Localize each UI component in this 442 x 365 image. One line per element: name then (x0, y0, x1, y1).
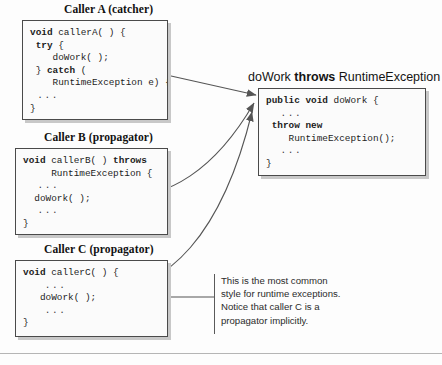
code-line: } (30, 103, 161, 116)
caller-a-code: void callerA( ) { try { doWork( ); } cat… (23, 21, 167, 120)
dowork-title-part1: doWork (248, 70, 294, 84)
code-line: ... (23, 305, 161, 318)
annotation-line: propagator implicitly. (221, 314, 394, 327)
caller-c-code-box: void callerC( ) { ... doWork( ); ...} (15, 260, 168, 337)
annotation-note: This is the most common style for runtim… (214, 274, 394, 334)
code-line: } catch ( (30, 65, 161, 78)
caller-a-code-box: void callerA( ) { try { doWork( ); } cat… (22, 20, 168, 120)
code-line: void callerA( ) { (30, 27, 161, 40)
code-line: ... (23, 205, 161, 218)
caller-c-title: Caller C (propagator) (44, 243, 154, 255)
code-line: RuntimeException e) { (30, 77, 161, 90)
code-line: try { (30, 40, 161, 53)
bottom-divider (0, 353, 442, 354)
code-line: } (23, 218, 161, 231)
annotation-line: This is the most common (221, 274, 394, 287)
exception-propagation-diagram: Caller A (catcher) void callerA( ) { try… (0, 0, 442, 365)
code-line: ... (266, 145, 419, 158)
dowork-code: public void doWork { ... throw new Runti… (259, 89, 425, 176)
caller-a-title: Caller A (catcher) (64, 3, 153, 15)
code-line: RuntimeException { (23, 168, 161, 181)
code-line: doWork( ); (23, 292, 161, 305)
code-line: } (23, 317, 161, 330)
code-line: void callerB( ) throws (23, 155, 161, 168)
annotation-line: Notice that caller C is a (221, 300, 394, 313)
dowork-code-box: public void doWork { ... throw new Runti… (258, 88, 426, 176)
code-line: doWork( ); (30, 52, 161, 65)
code-line: public void doWork { (266, 95, 419, 108)
code-line: } (266, 158, 419, 171)
code-line: ... (23, 180, 161, 193)
code-line: ... (30, 90, 161, 103)
annotation-line: style for runtime exceptions. (221, 287, 394, 300)
caller-c-code: void callerC( ) { ... doWork( ); ...} (16, 261, 167, 335)
code-line: throw new (266, 120, 419, 133)
caller-b-title: Caller B (propagator) (44, 131, 153, 143)
dowork-title: doWork throws RuntimeException (248, 70, 440, 84)
code-line: ... (266, 108, 419, 121)
caller-b-code: void callerB( ) throws RuntimeException … (16, 149, 167, 235)
code-line: void callerC( ) { (23, 267, 161, 280)
dowork-title-part2: RuntimeException (335, 70, 440, 84)
code-line: doWork( ); (23, 193, 161, 206)
code-line: RuntimeException(); (266, 133, 419, 146)
code-line: ... (23, 280, 161, 293)
caller-b-code-box: void callerB( ) throws RuntimeException … (15, 148, 168, 235)
dowork-title-keyword: throws (294, 70, 335, 84)
